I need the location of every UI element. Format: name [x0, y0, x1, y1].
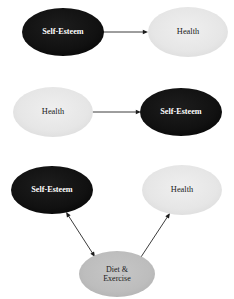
diet-exercise-node: Diet &Exercise — [79, 251, 155, 297]
edge-line — [67, 214, 94, 255]
node-ellipse — [11, 166, 93, 214]
arrowhead-forward-icon — [143, 30, 148, 34]
causal-models-diagram: Self-EsteemHealthHealthSelf-EsteemSelf-E… — [0, 0, 234, 299]
diagram-canvas: Self-EsteemHealthHealthSelf-EsteemSelf-E… — [0, 0, 234, 299]
self-esteem-causes-health: Self-EsteemHealth — [22, 7, 228, 57]
health-node: Health — [13, 87, 93, 137]
arrow-diet-exercise-to-health — [141, 213, 170, 257]
edge-line — [141, 215, 169, 257]
self-esteem-node: Self-Esteem — [140, 88, 222, 136]
health-node: Health — [142, 165, 222, 215]
node-ellipse — [79, 251, 155, 297]
arrow-health-to-self-esteem — [86, 110, 141, 114]
diet-exercise-mediator-model: Self-EsteemHealthDiet &Exercise — [11, 165, 222, 297]
node-ellipse — [142, 165, 222, 215]
self-esteem-node: Self-Esteem — [22, 8, 104, 56]
panels-layer: Self-EsteemHealthHealthSelf-EsteemSelf-E… — [11, 7, 228, 297]
arrowhead-forward-icon — [165, 213, 170, 219]
node-ellipse — [140, 88, 222, 136]
health-node: Health — [148, 7, 228, 57]
self-esteem-node: Self-Esteem — [11, 166, 93, 214]
node-ellipse — [148, 7, 228, 57]
arrow-self-esteem-diet-exercise-bidirectional — [66, 212, 95, 257]
arrowhead-forward-icon — [66, 212, 71, 218]
health-causes-self-esteem: HealthSelf-Esteem — [13, 87, 222, 137]
node-ellipse — [13, 87, 93, 137]
node-ellipse — [22, 8, 104, 56]
